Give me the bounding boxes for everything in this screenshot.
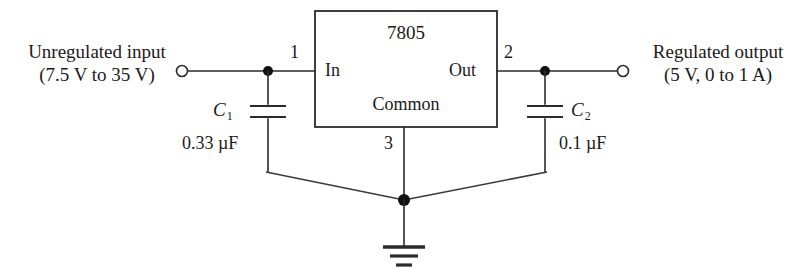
ic-pin-common-label: Common (315, 94, 497, 115)
wire-c2-to-common-node (404, 172, 547, 200)
pin-number-2-label: 2 (504, 42, 513, 63)
c2-name-label: C2 (571, 99, 590, 121)
input-port-line2: (7.5 V to 35 V) (22, 63, 172, 86)
c1-value-label: 0.33 µF (182, 133, 238, 154)
c2-name-letter: C (571, 99, 584, 120)
output-terminal-circle-icon (618, 66, 629, 77)
output-port-label: Regulated output (5 V, 0 to 1 A) (642, 40, 794, 86)
input-port-label: Unregulated input (7.5 V to 35 V) (22, 40, 172, 86)
input-terminal-circle-icon (177, 66, 188, 77)
wire-c1-to-common-node (266, 172, 404, 200)
output-port-line2: (5 V, 0 to 1 A) (642, 63, 794, 86)
c2-value-label: 0.1 µF (559, 133, 606, 154)
ic-part-number-label: 7805 (315, 22, 497, 44)
ic-pin-out-label: Out (449, 60, 476, 81)
c1-name-label: C1 (213, 99, 232, 121)
c1-name-letter: C (213, 99, 226, 120)
input-port-line1: Unregulated input (28, 41, 166, 62)
pin-number-3-label: 3 (384, 133, 393, 154)
ic-pin-in-label: In (325, 60, 340, 81)
c1-name-subscript: 1 (227, 109, 233, 123)
c2-name-subscript: 2 (585, 109, 591, 123)
output-port-line1: Regulated output (653, 41, 783, 62)
pin-number-1-label: 1 (290, 42, 299, 63)
